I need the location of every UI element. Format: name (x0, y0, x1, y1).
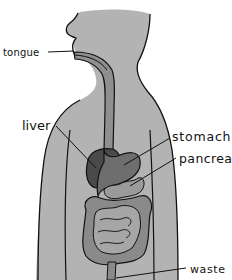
tongue-leader (48, 51, 74, 52)
label-tongue: tongue (3, 48, 39, 58)
small-intestine (93, 206, 140, 255)
label-stomach: stomach (172, 131, 231, 144)
label-waste: waste (190, 264, 226, 275)
rectum (107, 262, 116, 280)
label-pancreas: pancreas (179, 153, 232, 166)
label-liver: liver (22, 119, 50, 132)
digestive-system-diagram: tongue liver stomach pancreas waste (0, 0, 232, 280)
